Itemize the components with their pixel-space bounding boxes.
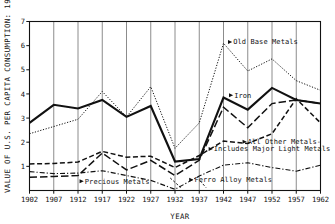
x-tick-label: 1947	[239, 195, 256, 204]
y-tick-label: 5	[21, 65, 25, 74]
x-axis-label: YEAR	[170, 212, 190, 221]
series-annotation: Precious Metals	[85, 178, 150, 186]
annotation-arrow	[80, 179, 84, 183]
series-annotation: Old Base Metals	[233, 38, 298, 46]
x-tick-label: 1907	[45, 195, 62, 204]
y-tick-label: 1	[21, 162, 25, 171]
y-tick-label: 6	[21, 41, 25, 50]
x-tick-label: 1942	[215, 195, 232, 204]
annotation-arrow	[228, 40, 232, 44]
annotation-leaders	[80, 40, 247, 188]
x-tick-label: 1912	[70, 195, 87, 204]
y-tick-label: 2	[21, 138, 25, 147]
x-tick-label: 1917	[94, 195, 111, 204]
line-chart: Old Base MetalsIronAll Other Metals-Incl…	[0, 0, 335, 224]
series-annotation: Ferro Alloy Metals	[194, 176, 272, 184]
x-tick-label: 1932	[167, 195, 184, 204]
chart-figure: Old Base MetalsIronAll Other Metals-Incl…	[0, 0, 335, 224]
y-tick-labels: 1234567	[21, 17, 25, 171]
y-tick-label: 3	[21, 114, 25, 123]
series-annotation: Iron	[234, 92, 251, 100]
y-tick-label: 7	[21, 17, 25, 26]
annotation-arrow	[189, 178, 193, 182]
x-tick-label: 1927	[142, 195, 159, 204]
annotation-leader	[170, 178, 181, 188]
x-tick-label: 1937	[191, 195, 208, 204]
x-tick-label: 1957	[288, 195, 305, 204]
y-tick-label: 4	[21, 90, 25, 99]
x-tick-label: 1962	[312, 195, 329, 204]
x-tick-labels: 1902190719121917192219271932193719421947…	[21, 195, 329, 204]
series-annotation: Includes Major Light Metals	[214, 145, 330, 153]
x-tick-label: 1952	[264, 195, 281, 204]
x-tick-label: 1922	[118, 195, 135, 204]
x-tick-label: 1902	[21, 195, 38, 204]
y-axis-label: VALUE OF U.S. PER CAPITA CONSUMPTION: 19…	[3, 0, 12, 193]
annotation-arrow	[229, 93, 233, 97]
